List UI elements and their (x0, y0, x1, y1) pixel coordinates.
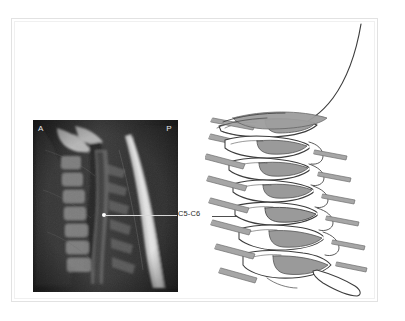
mri-image-panel: A P (33, 120, 178, 292)
occiput-curve (297, 24, 361, 126)
mri-orientation-label-posterior: P (166, 125, 172, 133)
c7-spinous-process (313, 270, 360, 296)
cervical-spine-illustration (205, 22, 375, 297)
annotation-label-c5-c6: C5-C6 (178, 210, 200, 218)
figure-root: A P C5-C6 (0, 0, 405, 321)
nerve-root-c7 (215, 244, 255, 259)
transverse-process-c7 (336, 262, 367, 272)
mri-leader-line (105, 215, 177, 216)
mri-sagittal-cervical-spine (33, 120, 178, 292)
mri-orientation-label-anterior: A (38, 125, 44, 133)
